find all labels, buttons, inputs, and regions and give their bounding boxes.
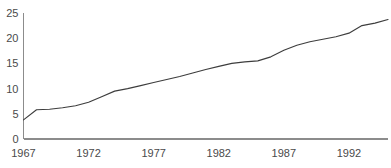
x-tick-label: 1992 <box>337 147 361 159</box>
x-tick-label: 1972 <box>76 147 100 159</box>
line-chart: 0510152025 196719721977198219871992 <box>0 0 391 168</box>
y-tick-label: 20 <box>6 32 18 44</box>
y-tick-label: 10 <box>6 83 18 95</box>
data-series-line <box>24 20 389 120</box>
y-tick-label: 15 <box>6 57 18 69</box>
y-tick-label: 5 <box>12 108 18 120</box>
x-axis-tick-labels: 196719721977198219871992 <box>11 147 361 159</box>
x-tick-label: 1977 <box>141 147 165 159</box>
chart-canvas: 0510152025 196719721977198219871992 <box>0 0 391 168</box>
y-tick-label: 0 <box>12 133 18 145</box>
x-tick-label: 1982 <box>207 147 231 159</box>
y-axis-tick-labels: 0510152025 <box>6 7 18 145</box>
y-tick-label: 25 <box>6 7 18 19</box>
x-tick-label: 1967 <box>11 147 35 159</box>
x-tick-label: 1987 <box>272 147 296 159</box>
